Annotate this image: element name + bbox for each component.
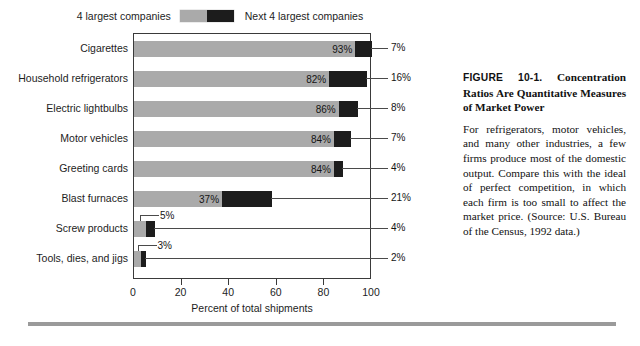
- x-axis-tick-label: 80: [318, 286, 330, 298]
- bar-row: 93%: [134, 34, 370, 64]
- bar-segment-four-largest: [134, 221, 146, 237]
- next-four-value-label: 4%: [391, 162, 405, 173]
- next-four-value-label: 21%: [391, 192, 411, 203]
- four-largest-value-label: 84%: [311, 164, 331, 175]
- value-leader-line: [342, 168, 388, 169]
- four-largest-value-label: 3%: [158, 240, 172, 251]
- bar-segment-next-four: [146, 221, 156, 237]
- legend-swatch-black-icon: [207, 10, 234, 22]
- four-largest-value-label: 5%: [160, 210, 174, 221]
- next-four-value-label: 7%: [391, 132, 405, 143]
- bar-row: 82%: [134, 64, 370, 94]
- x-axis-title: Percent of total shipments: [133, 302, 371, 314]
- bar-segment-four-largest: 84%: [134, 161, 334, 177]
- figure-caption: FIGURE 10-1. Concentration Ratios Are Qu…: [463, 70, 626, 239]
- category-label: Tools, dies, and jigs: [36, 243, 128, 273]
- value-leader-line: [366, 78, 388, 79]
- bottom-rule-divider: [28, 322, 616, 326]
- x-axis-tick-label: 20: [175, 286, 187, 298]
- category-axis-labels: CigarettesHousehold refrigeratorsElectri…: [0, 33, 128, 279]
- bar-row: 86%: [134, 94, 370, 124]
- bar-segment-four-largest: [134, 251, 141, 267]
- bar-segment-four-largest: 84%: [134, 131, 334, 147]
- bar-segment-four-largest: 93%: [134, 41, 355, 57]
- chart-legend: 4 largest companies Next 4 largest compa…: [0, 10, 440, 22]
- legend-swatch-gray-icon: [180, 10, 207, 22]
- figure-caption-title: FIGURE 10-1. Concentration Ratios Are Qu…: [463, 70, 626, 115]
- legend-swatches: [180, 10, 234, 22]
- category-label: Greeting cards: [59, 153, 128, 183]
- x-axis-tick: [181, 279, 182, 285]
- bar-segment-next-four: [329, 71, 367, 87]
- bar-segment-next-four: [334, 131, 351, 147]
- bar-segment-next-four: [222, 191, 272, 207]
- four-largest-value-label: 82%: [306, 74, 326, 85]
- bar-row: 3%: [134, 244, 370, 274]
- stacked-bar: 86%: [134, 101, 358, 117]
- stacked-bar: [134, 251, 146, 267]
- value-leader-line: [145, 258, 388, 259]
- figure-caption-body: For refrigerators, motor vehicles, and m…: [463, 122, 626, 239]
- figure-root: 4 largest companies Next 4 largest compa…: [0, 0, 640, 346]
- category-label: Motor vehicles: [60, 123, 128, 153]
- value-leader-line: [154, 228, 388, 229]
- stacked-bar: 84%: [134, 131, 351, 147]
- next-four-value-label: 16%: [391, 72, 411, 83]
- bar-segment-next-four: [141, 251, 146, 267]
- next-four-value-label: 7%: [391, 42, 405, 53]
- next-four-value-label: 2%: [391, 252, 405, 263]
- x-axis-tick-labels: 020406080100: [133, 286, 371, 300]
- x-axis-tick-label: 0: [130, 286, 136, 298]
- value-leader-line: [350, 138, 388, 139]
- x-axis-tick-label: 40: [222, 286, 234, 298]
- four-largest-value-label: 84%: [311, 134, 331, 145]
- category-label: Screw products: [56, 213, 128, 243]
- bar-segment-next-four: [339, 101, 358, 117]
- bar-row: 84%: [134, 154, 370, 184]
- bar-segment-next-four: [355, 41, 372, 57]
- four-largest-value-label: 86%: [316, 104, 336, 115]
- category-label: Blast furnaces: [61, 183, 128, 213]
- next-four-value-label: 8%: [391, 102, 405, 113]
- stacked-bar: 84%: [134, 161, 343, 177]
- legend-label-next-four: Next 4 largest companies: [245, 10, 363, 22]
- stacked-bar: 37%: [134, 191, 272, 207]
- x-axis-tick: [228, 279, 229, 285]
- x-axis-tick: [276, 279, 277, 285]
- bar-series-group: 93%82%86%84%84%37%5%3%: [134, 34, 370, 278]
- value-leader-line: [371, 48, 388, 49]
- bar-row: 84%: [134, 124, 370, 154]
- category-label: Household refrigerators: [18, 63, 128, 93]
- value-leader-line: [271, 198, 388, 199]
- next-four-value-label: 4%: [391, 222, 405, 233]
- four-largest-value-label: 37%: [199, 194, 219, 205]
- value-leader-line: [357, 108, 388, 109]
- category-label: Cigarettes: [80, 33, 128, 63]
- bar-segment-next-four: [334, 161, 344, 177]
- stacked-bar: [134, 221, 155, 237]
- x-axis-ticks: [133, 279, 371, 285]
- category-label: Electric lightbulbs: [46, 93, 128, 123]
- stacked-bar: 82%: [134, 71, 367, 87]
- four-largest-value-label: 93%: [332, 44, 352, 55]
- legend-label-four-largest: 4 largest companies: [77, 10, 171, 22]
- plot-area: 93%82%86%84%84%37%5%3%: [133, 33, 371, 279]
- bar-segment-four-largest: 37%: [134, 191, 222, 207]
- bar-segment-four-largest: 86%: [134, 101, 339, 117]
- x-axis-tick: [323, 279, 324, 285]
- x-axis-tick-label: 100: [362, 286, 380, 298]
- figure-number: FIGURE 10-1.: [463, 72, 542, 83]
- bar-segment-four-largest: 82%: [134, 71, 329, 87]
- stacked-bar: 93%: [134, 41, 372, 57]
- x-axis-tick-label: 60: [270, 286, 282, 298]
